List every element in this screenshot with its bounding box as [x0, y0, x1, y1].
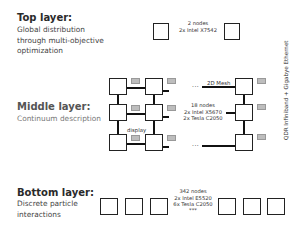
mesh-link: [163, 90, 169, 92]
middle-layer-title: Middle layer:: [17, 101, 91, 113]
bottom-node: [125, 198, 143, 215]
mesh-link: [127, 113, 145, 115]
gpu-icon: [257, 78, 266, 84]
desc-line: through multi-objective: [17, 36, 104, 47]
mesh-node: [109, 134, 127, 151]
mesh-link: [127, 143, 145, 145]
gpu-icon: [131, 78, 140, 84]
mesh-ellipsis: ...: [192, 81, 199, 88]
mesh-node: [109, 78, 127, 95]
mesh-link: [117, 121, 119, 134]
mesh-node: [145, 104, 163, 121]
bottom-hardware-label: 342 nodes 2x Intel E5520 6x Tesla C2050 …: [170, 188, 216, 212]
top-node-1: [153, 23, 169, 40]
bottom-node: [100, 198, 118, 215]
bottom-node: [267, 198, 285, 215]
desc-line: Discrete particle: [17, 199, 78, 210]
gpu-icon: [257, 134, 266, 140]
top-node-2: [224, 23, 240, 40]
bottom-node: [243, 198, 261, 215]
mesh-link: [153, 95, 155, 104]
mesh-label: 2D Mesh: [207, 80, 231, 87]
mesh-link: [117, 95, 119, 104]
desc-line: interactions: [17, 210, 78, 221]
bottom-node: [218, 198, 236, 215]
top-nodes-count: 2 nodes: [176, 20, 220, 27]
bottom-layer-title: Bottom layer:: [17, 187, 94, 199]
mesh-link: [127, 87, 145, 89]
mesh-link: [226, 112, 235, 114]
bottom-layer-description: Discrete particle interactions: [17, 199, 78, 220]
mesh-node: [235, 134, 253, 151]
middle-gpu: 2x Tesla C2050: [180, 115, 226, 122]
display-label: display: [127, 127, 146, 134]
middle-hardware-label: 18 nodes 2x Intel X5670 2x Tesla C2050: [180, 102, 226, 122]
interconnect-label: QDR Infiniband + Gigabye Ethernet: [283, 40, 289, 140]
middle-cpu: 2x Intel X5670: [180, 109, 226, 116]
middle-layer-description: Continuum description: [17, 114, 101, 125]
mesh-node: [235, 78, 253, 95]
mesh-node: [235, 104, 253, 121]
top-cpu: 2x Intel X7542: [176, 27, 220, 34]
top-layer-title: Top layer:: [17, 12, 72, 24]
gpu-icon: [167, 78, 176, 84]
gpu-icon: [257, 104, 266, 110]
gpu-icon: [131, 135, 140, 141]
gpu-icon: [131, 105, 140, 111]
bottom-nodes-count: 342 nodes: [170, 188, 216, 195]
bottom-node: [150, 198, 168, 215]
top-hardware-label: 2 nodes 2x Intel X7542: [176, 20, 220, 33]
gpu-icon: [167, 105, 176, 111]
mesh-link: [243, 121, 245, 134]
mesh-node: [145, 134, 163, 151]
mesh-node: [145, 78, 163, 95]
bottom-cpu: 2x Intel E5520: [170, 195, 216, 202]
mesh-ellipsis: ...: [192, 140, 199, 147]
mesh-node: [109, 104, 127, 121]
mesh-link: [163, 146, 169, 148]
desc-line: optimization: [17, 46, 104, 57]
gpu-icon: [167, 135, 176, 141]
mesh-link: [202, 145, 235, 147]
mesh-link: [153, 121, 155, 134]
mesh-link: [163, 116, 169, 118]
middle-nodes-count: 18 nodes: [180, 102, 226, 109]
desc-line: Global distribution: [17, 25, 104, 36]
top-layer-description: Global distribution through multi-object…: [17, 25, 104, 57]
bottom-ellipsis: ***: [170, 208, 216, 212]
mesh-link: [243, 95, 245, 104]
desc-line: Continuum description: [17, 114, 101, 125]
